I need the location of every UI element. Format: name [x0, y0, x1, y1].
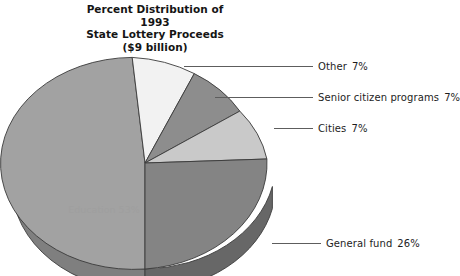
callout-general-fund-value: 26% — [397, 238, 420, 249]
callout-senior-citizen-programs-value: 7% — [444, 92, 460, 103]
callout-senior-citizen-programs: Senior citizen programs7% — [318, 92, 460, 103]
callout-general-fund-label: General fund — [326, 238, 392, 249]
callout-general-fund: General fund26% — [326, 238, 420, 249]
callout-cities-label: Cities — [318, 123, 346, 134]
callout-cities: Cities7% — [318, 123, 368, 134]
pie-slice-education — [1, 57, 145, 269]
pie-slice-general-fund — [145, 159, 267, 269]
callout-cities-value: 7% — [351, 123, 367, 134]
callout-other-value: 7% — [352, 61, 368, 72]
callout-senior-citizen-programs-label: Senior citizen programs — [318, 92, 439, 103]
pie-slices — [1, 57, 267, 269]
pie-inner-label-education: Education 53% — [68, 204, 139, 215]
callout-other-label: Other — [318, 61, 347, 72]
callout-other: Other7% — [318, 61, 368, 72]
